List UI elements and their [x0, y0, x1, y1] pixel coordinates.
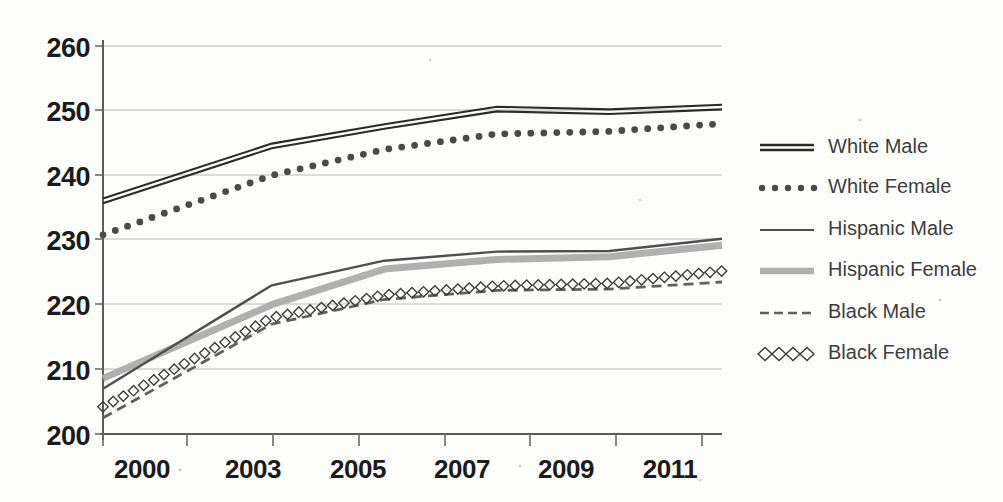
- xtick-label-2005: 2005: [330, 454, 386, 484]
- series-black-male: [103, 282, 722, 418]
- ytick-label-220: 220: [46, 291, 90, 321]
- xtick-label-2000: 2000: [114, 454, 170, 484]
- axes: [100, 40, 722, 440]
- ytick-label-210: 210: [46, 356, 90, 386]
- double-solid-swatch-icon: [760, 145, 814, 150]
- line-chart: 260 250 240 230 220 210 200 2000 2003 20…: [0, 0, 1003, 502]
- y-tick-marks: [95, 46, 103, 434]
- legend-label-hispanic-female: Hispanic Female: [828, 258, 977, 280]
- legend-item-hispanic-female[interactable]: Hispanic Female: [760, 258, 977, 280]
- series-white-male: [103, 105, 722, 203]
- series-hispanic-male: [103, 239, 722, 389]
- ytick-label-250: 250: [46, 97, 90, 127]
- ytick-label-230: 230: [46, 226, 90, 256]
- series-hispanic-female: [103, 245, 722, 378]
- series-white-female: [100, 121, 716, 238]
- legend-label-hispanic-male: Hispanic Male: [828, 217, 954, 239]
- legend-label-black-male: Black Male: [828, 300, 926, 322]
- xtick-label-2007: 2007: [434, 454, 490, 484]
- ytick-label-240: 240: [46, 162, 90, 192]
- xtick-label-2009: 2009: [538, 454, 594, 484]
- legend-label-white-male: White Male: [828, 135, 928, 157]
- ytick-label-200: 200: [46, 421, 90, 451]
- chart-container: 260 250 240 230 220 210 200 2000 2003 20…: [0, 0, 1003, 502]
- xtick-label-2003: 2003: [225, 454, 281, 484]
- y-axis-labels: 260 250 240 230 220 210 200: [46, 33, 90, 451]
- legend-item-black-male[interactable]: Black Male: [760, 300, 926, 322]
- legend: White Male White Female Hispanic Male: [758, 135, 977, 363]
- gridlines: [103, 46, 722, 434]
- xtick-label-2011: 2011: [643, 454, 697, 484]
- legend-item-white-male[interactable]: White Male: [760, 135, 928, 157]
- legend-item-hispanic-male[interactable]: Hispanic Male: [760, 217, 954, 239]
- legend-item-black-female[interactable]: Black Female: [758, 341, 949, 363]
- series-layer: [98, 105, 727, 418]
- legend-label-black-female: Black Female: [828, 341, 949, 363]
- x-axis-labels: 2000 2003 2005 2007 2009 2011: [114, 454, 697, 484]
- legend-label-white-female: White Female: [828, 175, 951, 197]
- x-tick-marks: [103, 434, 702, 446]
- ytick-label-260: 260: [46, 33, 90, 63]
- diamond-swatch-icon: [758, 348, 814, 361]
- dotted-swatch-icon: [759, 185, 817, 191]
- legend-item-white-female[interactable]: White Female: [759, 175, 952, 197]
